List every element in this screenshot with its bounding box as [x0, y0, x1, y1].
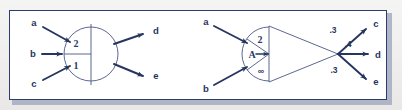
figure-screenshot: 2 1 a b c d e 2 A ∞: [0, 0, 402, 110]
figure-panel: [9, 10, 387, 100]
